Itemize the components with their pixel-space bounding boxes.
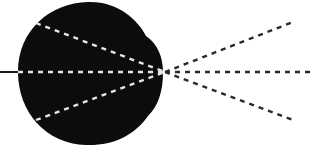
rays-outside-group — [165, 22, 314, 120]
ray-upper-outside — [165, 22, 293, 72]
ray-lower-outside — [165, 72, 293, 120]
lens-ray-diagram — [0, 0, 317, 153]
